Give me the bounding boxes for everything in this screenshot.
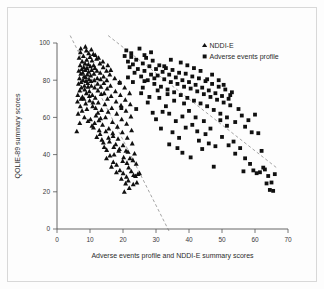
data-point-triangle (113, 89, 118, 94)
data-point-square (209, 127, 213, 131)
series-adverse-events (118, 47, 277, 193)
data-point-triangle (92, 120, 97, 125)
data-point-square (195, 89, 199, 93)
data-point-square (167, 142, 171, 146)
data-point-square (266, 174, 270, 178)
data-point-triangle (125, 135, 130, 140)
data-point-square (138, 47, 142, 51)
data-point-square (162, 64, 166, 68)
data-point-triangle (112, 76, 117, 81)
data-point-square (220, 94, 224, 98)
data-point-triangle (74, 129, 79, 134)
legend-label: NDDI-E (210, 42, 234, 49)
data-point-square (232, 140, 236, 144)
data-point-triangle (87, 89, 92, 94)
data-point-square (143, 79, 147, 83)
data-point-square (202, 92, 206, 96)
data-point-triangle (119, 176, 124, 181)
data-point-square (129, 55, 133, 59)
data-point-triangle (129, 128, 134, 133)
data-point-square (143, 69, 147, 73)
data-point-square (192, 99, 196, 103)
data-point-square (228, 93, 232, 97)
data-point-square (190, 75, 194, 79)
data-point-square (171, 68, 175, 72)
data-point-square (148, 64, 152, 68)
data-point-square (268, 188, 272, 192)
data-point-square (222, 101, 226, 105)
data-point-square (255, 171, 259, 175)
data-point-square (205, 77, 209, 81)
data-point-square (189, 87, 193, 91)
data-point-square (195, 129, 199, 133)
data-point-triangle (106, 126, 111, 131)
data-point-square (171, 130, 175, 134)
data-point-square (215, 98, 219, 102)
data-point-square (197, 139, 201, 143)
data-point-square (214, 144, 218, 148)
data-point-square (192, 66, 196, 70)
data-point-triangle (113, 142, 118, 147)
data-point-triangle (128, 114, 133, 119)
x-tick-label: 50 (218, 236, 226, 243)
data-point-triangle (84, 106, 89, 111)
data-point-square (133, 71, 137, 75)
data-point-triangle (109, 93, 114, 98)
data-point-square (139, 75, 143, 79)
data-point-square (174, 76, 178, 80)
data-point-square (194, 83, 198, 87)
data-point-triangle (95, 110, 100, 115)
data-point-square (237, 107, 241, 111)
y-axis-ticks: 020406080100 (39, 39, 57, 232)
data-point-square (184, 72, 188, 76)
data-point-triangle (89, 47, 94, 52)
data-point-square (156, 74, 160, 78)
data-point-triangle (132, 151, 137, 156)
data-point-square (199, 69, 203, 73)
data-point-square (151, 59, 155, 63)
data-point-triangle (134, 180, 139, 185)
data-point-triangle (83, 44, 88, 49)
data-point-triangle (102, 102, 107, 107)
data-point-square (119, 106, 123, 110)
data-point-square (271, 189, 275, 193)
y-tick-label: 40 (43, 151, 51, 158)
data-point-triangle (100, 59, 105, 64)
data-point-square (148, 95, 152, 99)
data-point-square (154, 67, 158, 71)
data-point-triangle (87, 98, 92, 103)
data-point-square (156, 89, 160, 93)
data-point-square (157, 96, 161, 100)
data-point-square (131, 62, 135, 66)
data-point-square (166, 92, 170, 96)
data-point-square (149, 50, 153, 54)
data-point-square (207, 142, 211, 146)
data-point-square (228, 103, 232, 107)
data-point-square (225, 124, 229, 128)
data-point-triangle (118, 92, 123, 97)
data-point-triangle (123, 97, 128, 102)
data-point-square (260, 149, 264, 153)
series-nddi-e (74, 44, 142, 194)
data-point-square (253, 113, 257, 117)
data-point-square (118, 81, 122, 85)
data-point-square (212, 108, 216, 112)
data-point-triangle (96, 100, 101, 105)
data-point-square (152, 82, 156, 86)
data-point-square (243, 156, 247, 160)
data-point-triangle (122, 189, 127, 194)
data-point-triangle (108, 83, 113, 88)
x-tick-label: 20 (119, 236, 127, 243)
data-point-square (169, 80, 173, 84)
data-point-square (199, 102, 203, 106)
legend-label: Adverse events profile (210, 53, 279, 61)
data-point-square (139, 91, 143, 95)
data-point-square (209, 95, 213, 99)
data-point-square (126, 76, 130, 80)
data-point-triangle (105, 63, 110, 68)
data-point-square (179, 61, 183, 65)
data-point-triangle (127, 91, 132, 96)
data-point-square (217, 78, 221, 82)
data-point-square (222, 83, 226, 87)
data-point-square (141, 62, 145, 66)
